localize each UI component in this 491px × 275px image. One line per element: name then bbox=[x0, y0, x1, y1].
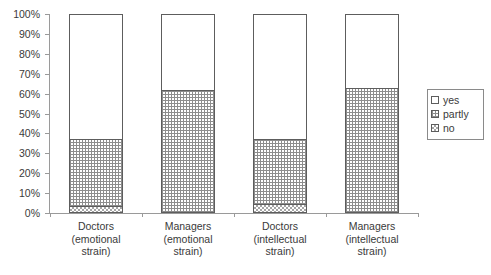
x-tick-mark bbox=[418, 213, 419, 217]
legend-item-no[interactable]: no bbox=[431, 121, 479, 135]
stacked-bar[interactable] bbox=[345, 14, 399, 213]
bar-segment-no[interactable] bbox=[70, 206, 122, 212]
bar-group bbox=[234, 14, 326, 213]
y-tick-label: 70% bbox=[19, 68, 40, 79]
legend-label: partly bbox=[443, 108, 469, 120]
x-category-label: Managers(emotionalstrain) bbox=[142, 220, 234, 258]
y-tick-label: 100% bbox=[13, 9, 40, 20]
x-category-label: Managers(intellectualstrain) bbox=[326, 220, 418, 258]
x-tick-mark bbox=[234, 213, 235, 217]
y-tick-label: 20% bbox=[19, 168, 40, 179]
bar-segment-yes[interactable] bbox=[70, 15, 122, 139]
x-category-label-line: (intellectual bbox=[234, 233, 326, 246]
y-tick-label: 90% bbox=[19, 28, 40, 39]
y-tick-label: 10% bbox=[19, 188, 40, 199]
x-category-label-line: (emotional bbox=[142, 233, 234, 246]
stacked-bar[interactable] bbox=[161, 14, 215, 213]
bar-segment-partly[interactable] bbox=[70, 139, 122, 206]
y-tick-label: 60% bbox=[19, 88, 40, 99]
stacked-bar-chart: 0%10%20%30%40%50%60%70%80%90%100% Doctor… bbox=[0, 0, 491, 275]
x-category-label-line: Doctors bbox=[50, 220, 142, 233]
stacked-bar[interactable] bbox=[69, 14, 123, 213]
legend-label: no bbox=[443, 122, 455, 134]
bar-segment-no[interactable] bbox=[254, 204, 306, 212]
legend-item-yes[interactable]: yes bbox=[431, 93, 479, 107]
y-tick-label: 80% bbox=[19, 48, 40, 59]
bar-segment-yes[interactable] bbox=[254, 15, 306, 139]
x-category-label-line: Doctors bbox=[234, 220, 326, 233]
bar-group bbox=[326, 14, 418, 213]
swatch-checkered-icon bbox=[431, 124, 439, 132]
swatch-fine-grid-icon bbox=[431, 110, 439, 118]
swatch-white-icon bbox=[431, 96, 439, 104]
x-category-label-line: (emotional bbox=[50, 233, 142, 246]
bar-segment-partly[interactable] bbox=[346, 88, 398, 212]
y-tick-label: 40% bbox=[19, 128, 40, 139]
bar-segment-partly[interactable] bbox=[162, 90, 214, 212]
x-category-label-line: Managers bbox=[326, 220, 418, 233]
bar-group bbox=[50, 14, 142, 213]
x-category-label-line: Managers bbox=[142, 220, 234, 233]
bar-segment-yes[interactable] bbox=[162, 15, 214, 90]
y-tick-label: 30% bbox=[19, 148, 40, 159]
x-category-label-line: strain) bbox=[142, 245, 234, 258]
y-tick-label: 0% bbox=[25, 208, 40, 219]
bar-segment-partly[interactable] bbox=[254, 139, 306, 204]
plot-area bbox=[50, 14, 418, 213]
x-tick-mark bbox=[142, 213, 143, 217]
bar-group bbox=[142, 14, 234, 213]
x-category-label-line: strain) bbox=[326, 245, 418, 258]
bar-segment-yes[interactable] bbox=[346, 15, 398, 88]
x-category-label: Doctors(emotionalstrain) bbox=[50, 220, 142, 258]
chart-legend: yespartlyno bbox=[427, 89, 484, 140]
x-category-label-line: strain) bbox=[234, 245, 326, 258]
x-tick-mark bbox=[50, 213, 51, 217]
x-axis: Doctors(emotionalstrain)Managers(emotion… bbox=[50, 220, 418, 270]
y-axis: 0%10%20%30%40%50%60%70%80%90%100% bbox=[0, 8, 44, 220]
legend-item-partly[interactable]: partly bbox=[431, 107, 479, 121]
y-tick-label: 50% bbox=[19, 108, 40, 119]
x-tick-mark bbox=[326, 213, 327, 217]
x-category-label-line: (intellectual bbox=[326, 233, 418, 246]
stacked-bar[interactable] bbox=[253, 14, 307, 213]
x-category-label-line: strain) bbox=[50, 245, 142, 258]
x-category-label: Doctors(intellectualstrain) bbox=[234, 220, 326, 258]
legend-label: yes bbox=[443, 94, 459, 106]
